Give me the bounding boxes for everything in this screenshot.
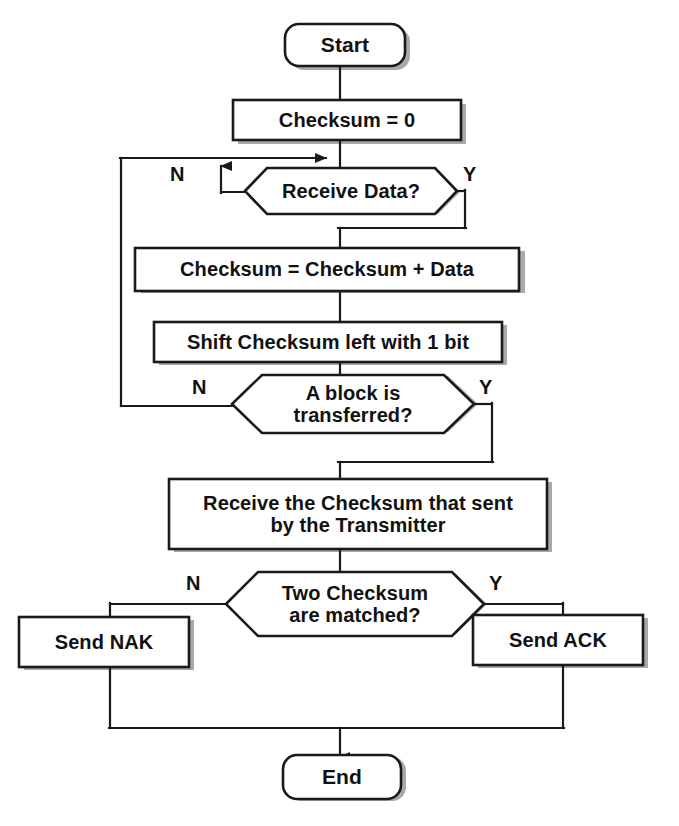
shape-two-checksum — [226, 572, 484, 636]
shape-send-ack — [473, 615, 643, 665]
shape-block-transferred — [232, 375, 474, 433]
shape-receive-checksum — [169, 479, 547, 549]
shape-send-nak — [19, 617, 189, 667]
shape-end — [283, 755, 401, 799]
shape-shift-left — [154, 322, 502, 362]
shape-receive-data — [245, 168, 457, 214]
shape-start — [285, 24, 405, 66]
shape-init-checksum — [233, 100, 461, 140]
node-shape-layer — [19, 24, 643, 799]
flowchart-canvas: Start Checksum = 0 Receive Data? Checksu… — [0, 0, 679, 826]
shape-add-data — [135, 248, 519, 291]
flowchart-graphics — [0, 0, 679, 826]
